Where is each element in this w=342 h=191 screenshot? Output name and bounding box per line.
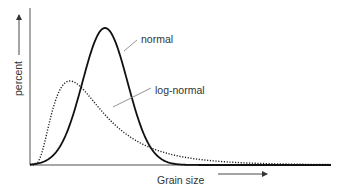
normal-curve	[30, 28, 331, 165]
y-axis-label: percent	[12, 61, 24, 96]
normal-label: normal	[141, 33, 173, 45]
lognormal-leader-line	[113, 88, 151, 107]
lognormal-label: log-normal	[155, 84, 205, 96]
normal-leader-line	[124, 40, 137, 51]
x-axis-label: Grain size	[157, 174, 204, 186]
grain-size-distribution-chart: percent Grain size normal log-normal	[0, 0, 342, 191]
